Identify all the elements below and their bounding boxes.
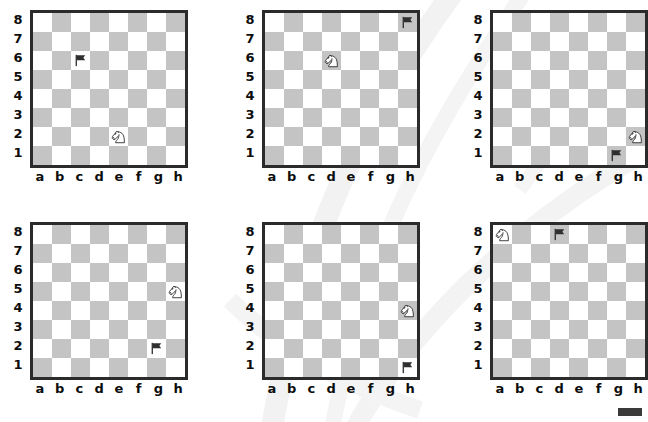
square-g5[interactable] [607,70,626,89]
square-f5[interactable] [360,70,379,89]
square-d3[interactable] [322,320,341,339]
square-g4[interactable] [379,89,398,108]
square-d1[interactable] [90,358,109,377]
square-c2[interactable] [71,127,90,146]
square-b2[interactable] [512,339,531,358]
square-e2[interactable] [109,339,128,358]
square-a2[interactable] [493,339,512,358]
square-g3[interactable] [607,320,626,339]
square-b7[interactable] [512,32,531,51]
square-a8[interactable] [33,225,52,244]
square-c7[interactable] [303,32,322,51]
square-g4[interactable] [607,301,626,320]
square-f4[interactable] [360,89,379,108]
square-e1[interactable] [109,358,128,377]
square-d5[interactable] [550,70,569,89]
square-f1[interactable] [360,146,379,165]
square-c5[interactable] [71,282,90,301]
square-b8[interactable] [512,225,531,244]
square-f5[interactable] [360,282,379,301]
square-g2[interactable] [607,339,626,358]
square-a8[interactable] [493,13,512,32]
square-e4[interactable] [341,301,360,320]
square-d6[interactable] [322,263,341,282]
square-e5[interactable] [569,70,588,89]
square-h7[interactable] [166,244,185,263]
square-h3[interactable] [626,108,645,127]
square-d6[interactable] [322,51,341,70]
square-d8[interactable] [550,225,569,244]
square-a5[interactable] [33,282,52,301]
square-h4[interactable] [166,301,185,320]
square-f3[interactable] [360,108,379,127]
square-e6[interactable] [341,263,360,282]
square-b1[interactable] [284,146,303,165]
square-f2[interactable] [360,127,379,146]
square-c8[interactable] [71,13,90,32]
square-e5[interactable] [569,282,588,301]
square-h2[interactable] [626,127,645,146]
square-c2[interactable] [531,339,550,358]
square-b7[interactable] [52,244,71,263]
square-b4[interactable] [512,301,531,320]
square-c7[interactable] [71,32,90,51]
square-c4[interactable] [303,89,322,108]
square-g3[interactable] [147,320,166,339]
square-e6[interactable] [109,51,128,70]
square-h3[interactable] [166,108,185,127]
square-f1[interactable] [588,358,607,377]
square-e6[interactable] [109,263,128,282]
square-d7[interactable] [550,32,569,51]
square-e3[interactable] [109,108,128,127]
square-a4[interactable] [33,301,52,320]
square-a3[interactable] [33,320,52,339]
square-h5[interactable] [166,70,185,89]
square-e1[interactable] [341,146,360,165]
square-h6[interactable] [626,51,645,70]
square-h1[interactable] [398,146,417,165]
square-h7[interactable] [398,244,417,263]
square-a8[interactable] [265,225,284,244]
square-b1[interactable] [512,146,531,165]
square-a1[interactable] [265,358,284,377]
square-g8[interactable] [147,13,166,32]
square-a7[interactable] [493,244,512,263]
square-b2[interactable] [284,127,303,146]
square-f4[interactable] [588,89,607,108]
square-g5[interactable] [147,282,166,301]
square-a2[interactable] [265,127,284,146]
square-e2[interactable] [341,339,360,358]
square-d2[interactable] [322,339,341,358]
square-c4[interactable] [303,301,322,320]
square-c4[interactable] [71,89,90,108]
square-f8[interactable] [360,225,379,244]
square-a6[interactable] [493,51,512,70]
square-a1[interactable] [33,146,52,165]
square-h6[interactable] [166,51,185,70]
square-a6[interactable] [265,263,284,282]
square-h1[interactable] [166,146,185,165]
square-f2[interactable] [588,339,607,358]
square-g3[interactable] [147,108,166,127]
square-c6[interactable] [71,263,90,282]
square-f6[interactable] [588,263,607,282]
square-b1[interactable] [52,146,71,165]
square-b6[interactable] [52,263,71,282]
square-a4[interactable] [493,301,512,320]
square-e6[interactable] [569,263,588,282]
square-d6[interactable] [90,263,109,282]
square-b5[interactable] [52,282,71,301]
square-h2[interactable] [166,339,185,358]
square-e8[interactable] [569,13,588,32]
square-g4[interactable] [607,89,626,108]
square-b4[interactable] [284,89,303,108]
square-b1[interactable] [52,358,71,377]
square-b8[interactable] [284,225,303,244]
square-c8[interactable] [303,13,322,32]
square-f1[interactable] [128,358,147,377]
square-d4[interactable] [550,301,569,320]
square-f3[interactable] [128,108,147,127]
square-c3[interactable] [71,320,90,339]
square-a1[interactable] [493,146,512,165]
square-g7[interactable] [607,32,626,51]
